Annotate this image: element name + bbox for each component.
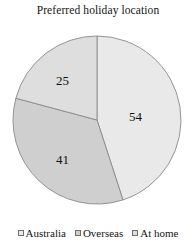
chart-legend: Australia Overseas At home [0,227,196,239]
legend-label-australia: Australia [26,227,66,239]
pie-slice-value-at-home: 25 [56,74,69,87]
pie-slice-value-australia: 54 [129,110,142,123]
open-square-icon [18,230,24,236]
open-square-icon [132,230,138,236]
pie-chart-canvas [0,0,196,247]
filled-square-icon [75,230,81,236]
legend-item-overseas: Overseas [75,227,123,239]
legend-item-at-home: At home [132,227,178,239]
pie-slice-group [13,36,181,204]
legend-item-australia: Australia [18,227,66,239]
pie-chart-figure: Preferred holiday location 54 41 25 Aust… [0,0,196,247]
pie-slice-value-overseas: 41 [56,153,69,166]
legend-label-at-home: At home [140,227,178,239]
legend-label-overseas: Overseas [83,227,123,239]
